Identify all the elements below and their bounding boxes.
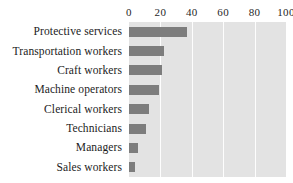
category-row: Transportation workers	[13, 41, 122, 60]
bar-machine-operators	[129, 85, 159, 95]
bar-slot	[129, 80, 159, 99]
category-label: Sales workers	[57, 161, 123, 174]
x-tick-40: 40	[186, 6, 198, 19]
bar-transportation-workers	[129, 46, 164, 56]
bar-slot	[129, 119, 146, 138]
y-axis-category-labels: Protective services Transportation worke…	[0, 22, 126, 177]
bar-slot	[129, 41, 164, 60]
bar-slot	[129, 138, 138, 157]
x-axis-tick-labels: 0 20 40 60 80 100	[129, 6, 286, 22]
x-tick-0: 0	[126, 6, 132, 19]
x-tick-80: 80	[249, 6, 261, 19]
category-label: Craft workers	[57, 64, 122, 77]
category-row: Machine operators	[34, 80, 122, 99]
category-row: Clerical workers	[44, 100, 122, 119]
bar-managers	[129, 143, 138, 153]
bar-slot	[129, 158, 135, 177]
plot-area	[129, 22, 286, 177]
x-tick-60: 60	[217, 6, 229, 19]
bar-technicians	[129, 124, 146, 134]
category-label: Technicians	[66, 122, 122, 135]
category-label: Protective services	[34, 25, 122, 38]
category-row: Managers	[76, 138, 122, 157]
category-label: Managers	[76, 141, 122, 154]
x-tick-20: 20	[154, 6, 166, 19]
bar-chart: 0 20 40 60 80 100 Protective services Tr…	[0, 0, 293, 183]
category-label: Transportation workers	[13, 45, 122, 58]
x-tick-100: 100	[277, 6, 293, 19]
category-row: Technicians	[66, 119, 122, 138]
bar-clerical-workers	[129, 104, 149, 114]
bar-sales-workers	[129, 162, 135, 172]
category-row: Sales workers	[57, 158, 123, 177]
bar-slot	[129, 22, 187, 41]
bar-protective-services	[129, 27, 187, 37]
category-row: Protective services	[34, 22, 122, 41]
bars-layer	[129, 22, 286, 177]
bar-craft-workers	[129, 65, 162, 75]
category-label: Machine operators	[34, 83, 122, 96]
category-label: Clerical workers	[44, 103, 122, 116]
bar-slot	[129, 100, 149, 119]
bar-slot	[129, 61, 162, 80]
category-row: Craft workers	[57, 61, 122, 80]
